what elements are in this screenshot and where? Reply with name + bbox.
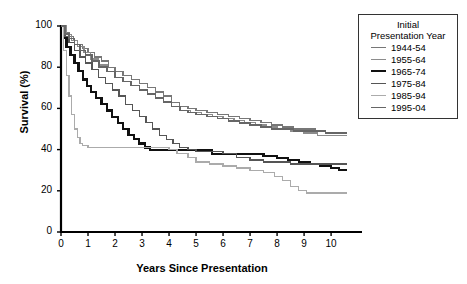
legend-item-label: 1995-04	[391, 102, 426, 113]
survival-chart-figure: Survival (%) Years Since Presentation 02…	[0, 0, 467, 284]
legend-item-1975-84: 1975-84	[362, 77, 454, 89]
legend-item-label: 1944-54	[391, 42, 426, 53]
x-tick-label: 2	[104, 238, 126, 249]
legend-line-swatch	[371, 59, 386, 60]
y-tick-label: 0	[22, 225, 52, 236]
x-tick-label: 7	[239, 238, 261, 249]
legend-line-swatch	[371, 107, 386, 108]
legend-item-label: 1985-94	[391, 90, 426, 101]
legend-title: Initial Presentation Year	[362, 19, 454, 41]
legend-item-1965-74: 1965-74	[362, 65, 454, 77]
x-tick-label: 0	[50, 238, 72, 249]
legend-item-1985-94: 1985-94	[362, 89, 454, 101]
x-axis-label: Years Since Presentation	[61, 262, 343, 274]
legend-item-label: 1965-74	[391, 66, 426, 77]
survival-curve-1985-94	[61, 26, 347, 193]
legend-line-swatch	[371, 47, 386, 48]
legend-item-1944-54: 1944-54	[362, 41, 454, 53]
x-tick-label: 10	[320, 238, 342, 249]
axis-lines	[61, 25, 362, 232]
legend-item-1995-04: 1995-04	[362, 101, 454, 113]
y-tick-label: 60	[22, 101, 52, 112]
x-tick-label: 8	[266, 238, 288, 249]
survival-curve-1965-74	[61, 26, 347, 170]
legend-line-swatch	[371, 83, 386, 84]
legend-line-swatch	[371, 95, 386, 96]
y-tick-label: 20	[22, 184, 52, 195]
x-tick-label: 6	[212, 238, 234, 249]
y-tick-label: 80	[22, 60, 52, 71]
legend: Initial Presentation Year 1944-541955-64…	[358, 14, 458, 119]
x-tick-label: 4	[158, 238, 180, 249]
survival-curve-1955-64	[61, 26, 347, 135]
legend-item-label: 1955-64	[391, 54, 426, 65]
legend-line-swatch	[371, 70, 386, 72]
legend-item-label: 1975-84	[391, 78, 426, 89]
legend-item-1955-64: 1955-64	[362, 53, 454, 65]
survival-curve-1944-54	[61, 26, 347, 133]
x-tick-label: 3	[131, 238, 153, 249]
legend-title-line2: Presentation Year	[362, 30, 454, 41]
x-tick-label: 1	[77, 238, 99, 249]
y-tick-label: 40	[22, 143, 52, 154]
x-tick-label: 5	[185, 238, 207, 249]
legend-entries: 1944-541955-641965-741975-841985-941995-…	[362, 41, 454, 113]
survival-curve-1995-04	[61, 26, 347, 133]
x-tick-label: 9	[293, 238, 315, 249]
legend-title-line1: Initial	[362, 19, 454, 30]
survival-curve-1975-84	[61, 26, 347, 164]
y-tick-label: 100	[22, 19, 52, 30]
